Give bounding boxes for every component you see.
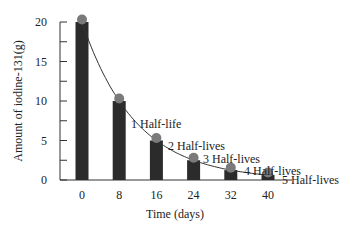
x-tick-label: 0 xyxy=(79,188,85,202)
x-tick-label: 40 xyxy=(262,188,274,202)
y-axis-title: Amount of iodine-131(g) xyxy=(11,40,25,161)
annotation-label: 2 Half-lives xyxy=(168,139,225,153)
x-tick-label: 16 xyxy=(150,188,162,202)
y-tick-label: 20 xyxy=(35,15,47,29)
data-marker xyxy=(189,153,199,163)
x-tick-label: 32 xyxy=(225,188,237,202)
half-life-chart: 05101520 0816243240 1 Half-life2 Half-li… xyxy=(0,0,350,230)
y-tick-label: 0 xyxy=(41,173,47,187)
y-tick-label: 15 xyxy=(35,55,47,69)
annotation-label: 5 Half-lives xyxy=(282,173,339,187)
bar xyxy=(76,22,89,180)
data-marker xyxy=(151,133,161,143)
bar xyxy=(187,160,200,180)
y-tick-label: 10 xyxy=(35,94,47,108)
bar xyxy=(113,101,126,180)
data-marker xyxy=(77,15,87,25)
y-tick-label: 5 xyxy=(41,134,47,148)
bar xyxy=(150,141,163,181)
x-axis-title: Time (days) xyxy=(146,207,204,221)
x-tick-label: 8 xyxy=(116,188,122,202)
data-marker xyxy=(114,94,124,104)
x-tick-label: 24 xyxy=(188,188,200,202)
annotation-label: 1 Half-life xyxy=(131,117,181,131)
